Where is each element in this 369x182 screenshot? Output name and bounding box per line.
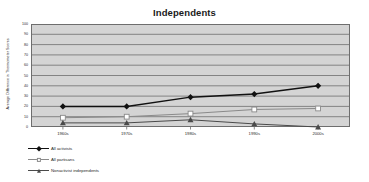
chart-title: Independents [0, 7, 369, 18]
y-axis-tick-label: 90 [24, 32, 28, 36]
legend-item-0[interactable]: All activists [28, 143, 188, 154]
y-axis-tick-label: 40 [24, 84, 28, 88]
legend-marker-glyph [36, 157, 40, 161]
data-point-marker [252, 107, 257, 112]
data-point-marker [316, 106, 321, 111]
legend-marker-glyph [37, 168, 41, 172]
y-axis-tick-label: 0 [26, 125, 28, 129]
y-axis-tick-label: 30 [24, 94, 28, 98]
x-axis-tick-label: 1980s [185, 131, 196, 136]
data-point-marker [315, 83, 321, 89]
legend-item-label: Nonactivist independents [51, 168, 99, 173]
y-axis-tick-label: 70 [24, 53, 28, 57]
legend-item-1[interactable]: All partisans [28, 154, 188, 165]
y-axis-tick-label: 80 [24, 43, 28, 47]
legend-item-label: All partisans [51, 157, 74, 162]
legend-marker-open-square-icon [28, 154, 49, 165]
y-axis-tick-label: 100 [22, 22, 28, 26]
data-point-marker [60, 103, 66, 109]
chart-plot-svg [31, 24, 350, 127]
data-point-marker [124, 114, 129, 119]
x-axis-tick-label: 2000s [312, 131, 323, 136]
y-axis-tick-label: 50 [24, 74, 28, 78]
chart-container: Independents Average Difference in Therm… [0, 0, 369, 182]
data-point-marker [187, 94, 193, 100]
data-point-marker [124, 103, 130, 109]
chart-legend: All activistsAll partisansNonactivist in… [28, 143, 188, 176]
legend-marker-filled-triangle-icon [28, 165, 49, 176]
legend-marker-filled-diamond-icon [28, 143, 49, 154]
x-axis-tick-label: 1960s [57, 131, 68, 136]
plot-area-wrapper [31, 24, 350, 127]
data-point-marker [61, 115, 66, 120]
legend-item-2[interactable]: Nonactivist independents [28, 165, 188, 176]
x-axis-tick-label: 1970s [121, 131, 132, 136]
legend-item-label: All activists [51, 146, 72, 151]
y-axis-tick-label: 60 [24, 63, 28, 67]
x-axis-tick-label: 1990s [249, 131, 260, 136]
y-axis-tick-label: 20 [24, 104, 28, 108]
data-point-marker [188, 111, 193, 116]
y-axis-tick-label: 10 [24, 115, 28, 119]
legend-marker-glyph [35, 145, 41, 151]
y-axis-tick-labels: 0102030405060708090100 [0, 24, 31, 127]
